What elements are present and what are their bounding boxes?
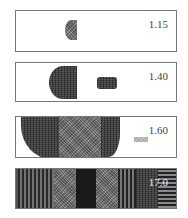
pattern-noise-1: [54, 169, 76, 209]
pattern-dark-block: [76, 169, 96, 209]
snapshot-panel-4: 17.0: [15, 168, 177, 209]
snapshot-panel-3: 1.60: [15, 116, 177, 158]
time-label: 1.15: [149, 18, 168, 30]
pattern-speck: [134, 137, 148, 142]
time-label: 17.0: [149, 176, 168, 188]
pattern-stripes-h: [158, 169, 177, 209]
pattern-region-center: [59, 117, 101, 158]
pattern-blob-secondary: [97, 77, 117, 89]
pattern-noise-2: [96, 169, 118, 209]
pattern-blob-main: [49, 66, 77, 99]
time-label: 1.40: [149, 70, 168, 82]
pattern-region-left: [21, 117, 59, 158]
pattern-noise-3: [136, 169, 158, 209]
snapshot-panel-1: 1.15: [15, 10, 177, 52]
pattern-stripes-v2: [118, 169, 136, 209]
pattern-blob: [65, 20, 77, 40]
snapshot-panel-2: 1.40: [15, 62, 177, 102]
pattern-stripes-v1: [18, 169, 54, 209]
time-label: 1.60: [149, 124, 168, 136]
pattern-region-right: [101, 117, 120, 157]
